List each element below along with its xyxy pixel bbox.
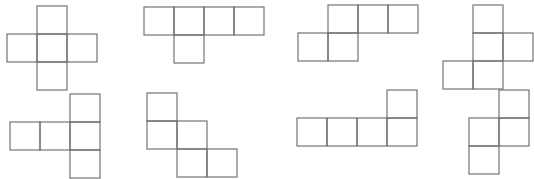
net-cell — [147, 121, 177, 149]
net-cell — [499, 90, 529, 118]
net-cell — [174, 7, 204, 35]
net-cell — [40, 122, 70, 150]
row-of-four-with-cell-below-second — [143, 6, 265, 64]
net-cell — [204, 7, 234, 35]
net-cell — [177, 149, 207, 177]
net-cell — [37, 6, 67, 34]
net-cell — [10, 122, 40, 150]
net-cell — [327, 118, 357, 146]
polyomino-net-7 — [296, 89, 418, 147]
net-cell — [7, 34, 37, 62]
net-cell — [70, 94, 100, 122]
net-cell — [234, 7, 264, 35]
net-cell — [37, 62, 67, 90]
net-cell — [174, 35, 204, 63]
net-cell — [177, 121, 207, 149]
net-cell — [503, 33, 533, 61]
net-cell — [147, 93, 177, 121]
net-cell — [499, 118, 529, 146]
polyomino-net-1 — [6, 5, 98, 91]
net-cell — [358, 5, 388, 33]
net-cell — [298, 33, 328, 61]
net-cell — [388, 5, 418, 33]
polyomino-net-6 — [146, 92, 238, 178]
net-cell — [207, 149, 237, 177]
net-cell — [387, 118, 417, 146]
staircase-net — [146, 92, 238, 178]
net-cell — [443, 61, 473, 89]
net-cell — [473, 33, 503, 61]
row-of-four-with-cell-above-fourth — [296, 89, 418, 147]
net-cell — [37, 34, 67, 62]
offset-three-over-two-net — [297, 4, 419, 62]
polyomino-net-5 — [9, 93, 101, 179]
zigzag-s-net — [438, 89, 530, 175]
net-cell — [328, 5, 358, 33]
net-cell — [328, 33, 358, 61]
two-plus-vertical-three-net — [9, 93, 101, 179]
net-cell — [297, 118, 327, 146]
net-cell — [387, 90, 417, 118]
net-cell — [473, 5, 503, 33]
net-cell — [469, 146, 499, 174]
net-cell — [144, 7, 174, 35]
vertical-three-with-side-cells-net — [442, 4, 534, 90]
polyomino-net-2 — [143, 6, 265, 64]
polyomino-net-3 — [297, 4, 419, 62]
net-cell — [70, 122, 100, 150]
net-cell — [469, 118, 499, 146]
net-cell — [67, 34, 97, 62]
polyomino-net-8 — [438, 89, 530, 175]
plus-cross-net — [6, 5, 98, 91]
polyomino-net-4 — [442, 4, 534, 90]
net-cell — [473, 61, 503, 89]
net-cell — [357, 118, 387, 146]
net-cell — [70, 150, 100, 178]
